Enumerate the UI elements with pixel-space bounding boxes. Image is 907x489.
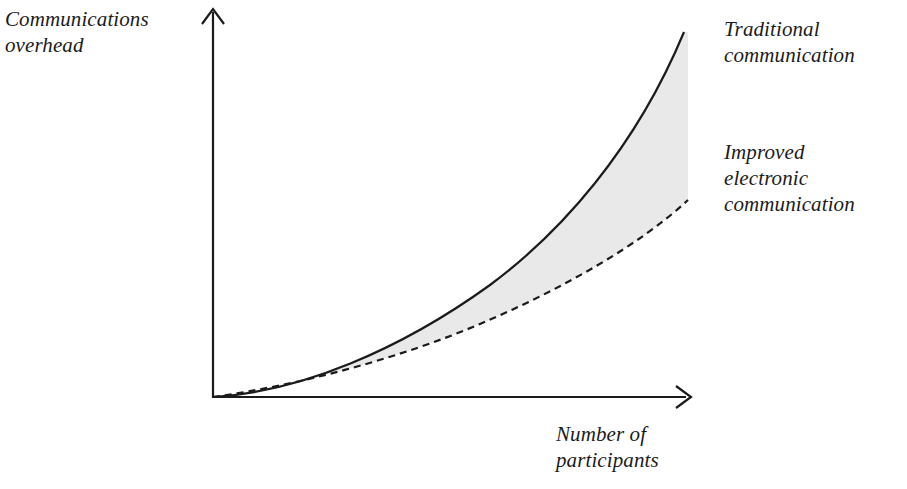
shaded-region-overhead-savings [213, 32, 688, 397]
communications-overhead-figure: Communications overhead Number of partic… [0, 0, 907, 489]
curve-label-traditional-communication: Traditional communication [724, 16, 907, 68]
curve-label-improved-electronic-communication: Improved electronic communication [724, 139, 907, 217]
y-axis-label: Communications overhead [5, 6, 195, 58]
chart-plot-area [0, 0, 907, 489]
x-axis-label: Number of participants [556, 421, 776, 473]
